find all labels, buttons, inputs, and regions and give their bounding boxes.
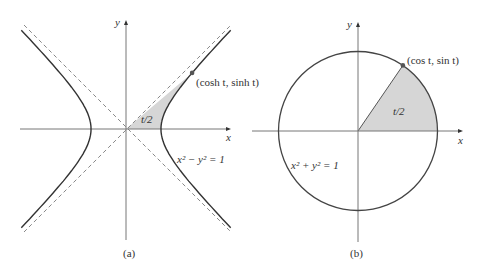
y-axis-arrow-a (124, 20, 128, 25)
point-label-a: (cosh t, sinh t) (196, 76, 259, 89)
point-label-b: (cos t, sin t) (407, 54, 459, 67)
y-axis-label-b: y (346, 18, 352, 30)
panel-b-circle: y x (cos t, sin t) t/2 x² + y² = 1 (b) (252, 18, 463, 260)
point-cosh-sinh (190, 71, 195, 76)
point-cos-sin (401, 63, 406, 68)
equation-label-b: x² + y² = 1 (290, 159, 339, 171)
y-axis-arrow-b (356, 22, 360, 27)
caption-b: (b) (350, 247, 363, 260)
area-label-b: t/2 (393, 105, 405, 117)
x-axis-arrow-b (458, 129, 463, 133)
x-axis-label-b: x (457, 134, 463, 146)
figure-canvas: y x (cosh t, sinh t) t/2 x² − y² = 1 (a)… (0, 0, 482, 272)
panel-a-hyperbola: y x (cosh t, sinh t) t/2 x² − y² = 1 (a) (20, 16, 259, 260)
y-axis-label-a: y (114, 16, 120, 28)
equation-label-a: x² − y² = 1 (176, 153, 225, 165)
circular-sector-shading (358, 65, 438, 131)
caption-a: (a) (123, 247, 136, 260)
x-axis-label-a: x (225, 131, 231, 143)
area-label-a: t/2 (141, 113, 153, 125)
